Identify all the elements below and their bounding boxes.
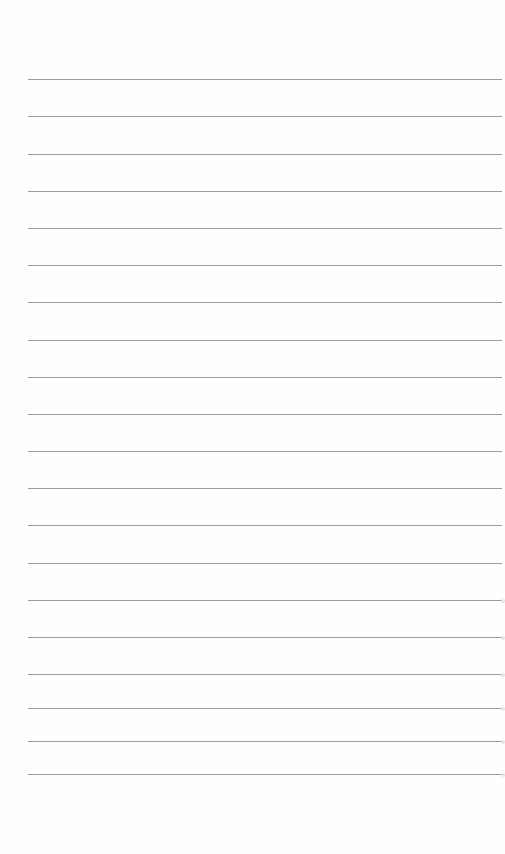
ruled-line	[28, 228, 502, 229]
ruled-line	[28, 563, 502, 564]
ruled-line	[28, 741, 502, 742]
lined-paper-page	[0, 0, 505, 854]
ruled-line	[28, 674, 502, 675]
ruled-line	[28, 708, 502, 709]
ruled-line	[28, 191, 502, 192]
ruled-line	[28, 340, 502, 341]
paper-edge-mark	[501, 636, 505, 640]
ruled-line	[28, 774, 502, 775]
ruled-line	[28, 265, 502, 266]
paper-edge-mark	[501, 707, 505, 711]
ruled-line	[28, 116, 502, 117]
ruled-line	[28, 451, 502, 452]
ruled-line	[28, 637, 502, 638]
ruled-line	[28, 79, 502, 80]
ruled-line	[28, 377, 502, 378]
ruled-line	[28, 525, 502, 526]
ruled-line	[28, 154, 502, 155]
ruled-line	[28, 488, 502, 489]
paper-edge-mark	[501, 673, 505, 677]
paper-edge-mark	[501, 599, 505, 603]
ruled-line	[28, 600, 502, 601]
ruled-line	[28, 414, 502, 415]
ruled-line	[28, 302, 502, 303]
paper-edge-mark	[501, 740, 505, 744]
paper-edge-mark	[501, 773, 505, 777]
